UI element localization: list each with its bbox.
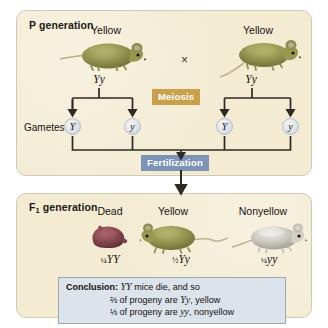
yellow-offspring-mouse-icon [140,219,228,255]
offspring3-phenotype-label: Nonyellow [226,205,300,217]
f1-title-subscript: 1 [36,206,40,215]
conclusion-line-1: Conclusion: YY mice die, and so [66,281,279,294]
conclusion-line3-text-b: , nonyellow [189,307,234,317]
offspring2-phenotype-label: Yellow [144,205,202,217]
offspring3-genotype: ¼yy [240,253,298,265]
gamete-circle-3: Y [216,118,233,135]
conclusion-box: Conclusion: YY mice die, and so ⅔ of pro… [58,277,286,324]
offspring1-phenotype-label: Dead [82,205,138,217]
conclusion-line1-text: mice die, and so [132,282,200,292]
conclusion-line2-text-b: , yellow [190,295,220,305]
nonyellow-mouse-icon [232,219,308,255]
parent2-phenotype-label: Yellow [228,24,288,36]
conclusion-line2-text-a: of progeny are [117,295,180,305]
conclusion-line-2: ⅔ of progeny are Yy, yellow [66,294,279,307]
gamete-circle-2: y [124,118,141,135]
parent1-phenotype-label: Yellow [76,24,136,36]
offspring1-genotype: ¼YY [78,253,142,265]
gamete-circle-4: y [282,118,299,135]
parent1-genotype: Yy [76,73,122,85]
meiosis-label: Meiosis [152,89,200,105]
gametes-label: Gametes [24,122,65,133]
conclusion-line2-genotype: Yy [180,294,190,305]
offspring2-alleles: Yy [178,253,190,265]
offspring3-alleles: yy [267,253,277,265]
conclusion-line-3: ⅓ of progeny are yy, nonyellow [66,306,279,319]
offspring2-genotype: ½Yy [152,253,210,265]
dead-mouse-icon [84,222,132,252]
gamete-circle-1: Y [64,118,81,135]
conclusion-line3-genotype: yy [180,306,189,317]
parent1-mouse-icon [58,37,150,71]
conclusion-line3-text-a: of progeny are [117,307,180,317]
f1-title-prefix: F [29,201,36,213]
conclusion-line1-genotype: YY [121,281,132,292]
conclusion-label: Conclusion: [66,282,118,292]
offspring1-alleles: YY [107,253,120,265]
fertilization-label: Fertilization [141,155,209,171]
parent2-genotype: Yy [228,73,274,85]
genetics-figure: P generation Yellow Yy × Yellow [0,0,328,328]
cross-symbol: × [181,54,188,66]
